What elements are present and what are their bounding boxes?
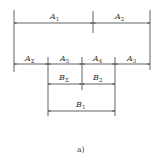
label-a1: A1	[49, 12, 59, 22]
dimension-chain-diagram: A1 A2 AΣ A5 A4 A3 BΣ B2 B1 a)	[0, 0, 162, 162]
label-a-sigma: AΣ	[24, 54, 35, 64]
label-b-sigma: BΣ	[58, 73, 69, 83]
label-b1: B1	[75, 100, 85, 110]
label-a4: A4	[92, 54, 103, 64]
label-a2: A2	[114, 12, 124, 22]
figure-caption: a)	[77, 145, 84, 154]
label-a5: A5	[59, 54, 70, 64]
label-b2: B2	[92, 73, 102, 83]
label-a3: A3	[126, 54, 137, 64]
